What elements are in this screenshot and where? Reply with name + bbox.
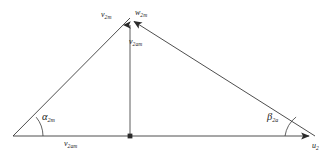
label-vertical-subscript: 2am (133, 41, 143, 47)
label-vertical-vector-v2am: v2am (129, 38, 142, 46)
right-diagonal-line-w2m (134, 22, 315, 136)
left-diagonal-line (13, 18, 130, 136)
label-base-vector-v2am: v2am (64, 140, 77, 148)
label-apex-left-vector-v2m: v2m (101, 11, 112, 19)
label-alpha-symbol: α (42, 111, 48, 122)
right-angle-arc (285, 117, 296, 136)
label-beta-subscript: 2a (272, 117, 278, 123)
label-alpha-subscript: 2m (48, 117, 56, 123)
label-apex-right-vector-w2m: w2m (135, 9, 147, 17)
velocity-triangle-figure: v2m w2m v2am v2am u2 α2m β2a (0, 0, 330, 161)
label-right-angle-beta2a: β2a (267, 112, 278, 123)
base-midpoint-marker (128, 134, 133, 139)
label-left-angle-alpha2m: α2m (42, 112, 55, 123)
label-u2-subscript: 2 (316, 145, 319, 151)
triangle-drawing-canvas (0, 0, 330, 161)
label-base-subscript: 2am (68, 143, 78, 149)
label-base-right-vector-u2: u2 (312, 142, 319, 150)
label-v2m-subscript: 2m (105, 14, 112, 20)
label-w2m-subscript: 2m (140, 12, 147, 18)
